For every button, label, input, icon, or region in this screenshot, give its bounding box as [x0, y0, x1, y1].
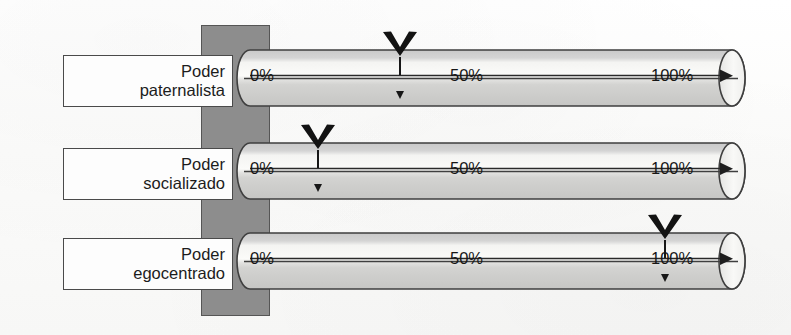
label-box-poder-paternalista: Poder paternalista: [63, 55, 233, 107]
tick-label-100: 100%: [651, 66, 693, 85]
marker-stem: [399, 57, 401, 75]
label-line-1: Poder: [181, 155, 225, 174]
diagram-canvas: Poder paternalista: [0, 0, 791, 335]
tick-label-0: 0%: [250, 159, 274, 178]
tick-label-0: 0%: [250, 66, 274, 85]
label-line-2: egocentrado: [133, 264, 225, 283]
tick-label-0: 0%: [250, 249, 274, 268]
label-line-2: paternalista: [140, 81, 225, 100]
label-line-2: socializado: [143, 174, 225, 193]
tick-label-50: 50%: [450, 66, 483, 85]
tick-label-50: 50%: [450, 159, 483, 178]
tick-label-100: 100%: [651, 159, 693, 178]
scale-row-poder-egocentrado: 0% 50% 100%: [236, 232, 754, 290]
marker-arrow-tip: [396, 91, 404, 99]
marker-stem: [317, 150, 319, 168]
marker-arrow-tip: [314, 184, 322, 192]
marker-arrow-tip: [661, 274, 669, 282]
scale-row-poder-paternalista: 0% 50% 100%: [236, 49, 754, 107]
tick-label-100: 100%: [651, 249, 693, 268]
label-line-1: Poder: [181, 245, 225, 264]
marker-stem: [664, 240, 666, 258]
tick-label-50: 50%: [450, 249, 483, 268]
scale-row-poder-socializado: 0% 50% 100%: [236, 142, 754, 200]
label-box-poder-socializado: Poder socializado: [63, 148, 233, 200]
label-box-poder-egocentrado: Poder egocentrado: [63, 238, 233, 290]
label-line-1: Poder: [181, 62, 225, 81]
